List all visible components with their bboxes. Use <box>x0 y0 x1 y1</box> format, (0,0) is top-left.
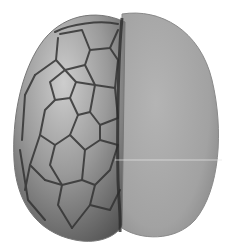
embryo-illustration <box>0 0 231 250</box>
right-lobe <box>122 13 219 237</box>
embryo-figure <box>0 0 231 250</box>
